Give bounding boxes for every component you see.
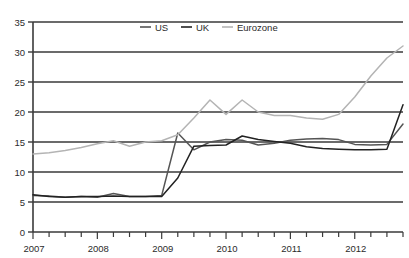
y-tick-label: 20: [14, 107, 25, 118]
y-tick-label: 15: [14, 137, 25, 148]
legend-label-uk: UK: [196, 22, 210, 33]
series-line-eurozone: [33, 46, 403, 154]
y-tick-label: 5: [20, 197, 25, 208]
y-tick-label: 25: [14, 77, 25, 88]
x-tick-label: 2012: [345, 243, 366, 254]
series-line-us: [33, 124, 403, 197]
x-tick-label: 2010: [216, 243, 237, 254]
x-tick-label: 2008: [88, 243, 109, 254]
chart-canvas: 05101520253035200720082009201020112012US…: [0, 0, 409, 258]
legend-label-us: US: [155, 22, 168, 33]
x-tick-label: 2009: [152, 243, 173, 254]
x-tick-label: 2011: [281, 243, 301, 254]
series-line-uk: [33, 105, 403, 197]
y-tick-label: 10: [14, 167, 25, 178]
line-chart: 05101520253035200720082009201020112012US…: [0, 0, 409, 258]
y-tick-label: 35: [14, 17, 25, 28]
x-tick-label: 2007: [23, 243, 44, 254]
legend-label-eurozone: Eurozone: [237, 22, 278, 33]
y-tick-label: 30: [14, 47, 25, 58]
y-tick-label: 0: [20, 227, 25, 238]
